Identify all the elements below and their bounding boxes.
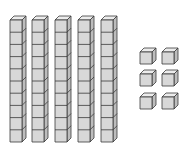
unit-cube	[140, 48, 156, 64]
front-face	[140, 74, 152, 86]
front-face	[140, 97, 152, 109]
base-ten-blocks-canvas	[0, 0, 181, 154]
front-face	[162, 97, 174, 109]
unit-cube	[140, 70, 156, 86]
unit-cube	[162, 48, 178, 64]
front-face	[140, 52, 152, 64]
tens-rods-group	[10, 16, 117, 142]
unit-cubes-group	[140, 48, 178, 109]
tens-rod	[32, 16, 48, 142]
tens-rod	[55, 16, 71, 142]
tens-rod	[101, 16, 117, 142]
front-face	[162, 74, 174, 86]
unit-cube	[162, 70, 178, 86]
front-face	[162, 52, 174, 64]
unit-cube	[162, 93, 178, 109]
tens-rod	[78, 16, 94, 142]
base-ten-blocks-figure	[0, 0, 181, 154]
unit-cube	[140, 93, 156, 109]
tens-rod	[10, 16, 26, 142]
